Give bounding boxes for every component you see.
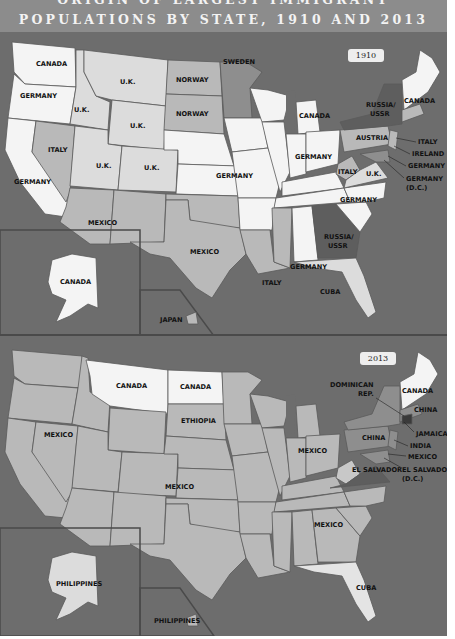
state-michigan: [296, 404, 320, 438]
label-la: ITALY: [262, 279, 282, 287]
lake-michigan: [286, 90, 296, 130]
label-ga-2: USSR: [328, 242, 348, 250]
label-oh: GERMANY: [295, 153, 332, 161]
state-ohio: [306, 130, 340, 172]
label-fl: CUBA: [320, 288, 341, 296]
label-sd: NORWAY: [176, 110, 209, 118]
label-or: GERMANY: [20, 92, 57, 100]
map-2013: CANADA CANADA ETHIOPIA MEXICO MEXICO MEX…: [0, 336, 447, 636]
state-maryland: [360, 450, 390, 464]
label-ny-1: DOMINICAN: [330, 381, 374, 389]
label-nc: GERMANY: [340, 196, 377, 204]
label-sd: ETHIOPIA: [181, 417, 217, 425]
title-line-2: POPULATIONS BY STATE, 1910 AND 2013: [0, 12, 447, 27]
map-2013-svg: CANADA CANADA ETHIOPIA MEXICO MEXICO MEX…: [0, 336, 447, 636]
state-new-england: [400, 352, 438, 410]
label-dc-2: (D.C.): [406, 184, 427, 192]
state-hawaii: [186, 312, 198, 324]
state-alaska: [48, 254, 98, 322]
state-new-jersey: [388, 430, 398, 450]
label-ne: CANADA: [402, 387, 434, 395]
label-mt: U.K.: [120, 78, 135, 86]
label-fl: CUBA: [356, 584, 377, 592]
state-north-carolina: [344, 486, 386, 506]
label-wv: ITALY: [338, 168, 358, 176]
label-al: GERMANY: [290, 263, 327, 271]
label-tx: MEXICO: [190, 248, 219, 256]
label-co: U.K.: [144, 164, 159, 172]
label-wy: U.K.: [130, 122, 145, 130]
label-nd: CANADA: [180, 383, 212, 391]
label-central: MEXICO: [165, 483, 194, 491]
infographic-title: ORIGIN OF LARGEST IMMIGRANT POPULATIONS …: [0, 0, 447, 32]
label-ne: CANADA: [404, 97, 436, 105]
state-kansas: [176, 164, 238, 196]
label-ak: PHILIPPINES: [56, 580, 103, 588]
page-margin: [447, 0, 455, 639]
hawaii-inset-border: [140, 290, 214, 336]
state-wyoming: [108, 408, 166, 454]
map-1910: CANADA GERMANY GERMANY U.K. U.K. ITALY U…: [0, 32, 447, 336]
label-ny-2: USSR: [370, 110, 390, 118]
state-maryland: [360, 150, 390, 162]
state-wisconsin: [250, 394, 290, 428]
state-iowa: [224, 424, 268, 456]
label-ut: U.K.: [96, 162, 111, 170]
state-ohio: [306, 434, 340, 476]
label-md: GERMANY: [408, 162, 445, 170]
label-nj: JAMAICA: [415, 430, 447, 438]
label-ny-2: REP.: [358, 390, 374, 398]
label-dc-2: (D.C.): [402, 475, 423, 483]
label-de: IRELAND: [412, 150, 445, 158]
hawaii-inset-border: [140, 588, 214, 636]
label-pa: CHINA: [362, 434, 386, 442]
state-new-mexico: [110, 190, 166, 244]
label-de: INDIA: [410, 442, 432, 450]
label-nv: ITALY: [48, 146, 68, 154]
state-new-mexico: [110, 492, 166, 546]
map-1910-svg: CANADA GERMANY GERMANY U.K. U.K. ITALY U…: [0, 32, 447, 336]
state-arizona: [60, 188, 114, 244]
label-wa: CANADA: [36, 60, 68, 68]
label-nj: ITALY: [418, 138, 438, 146]
state-arkansas: [238, 198, 276, 230]
state-iowa: [224, 118, 268, 152]
label-ga-1: RUSSIA/: [324, 233, 354, 241]
label-nd: NORWAY: [176, 76, 209, 84]
state-florida: [294, 562, 376, 622]
label-va: U.K.: [366, 170, 381, 178]
label-ma: CHINA: [414, 406, 438, 414]
label-va: EL SALVADOR: [352, 466, 402, 474]
label-mn: SWEDEN: [223, 58, 255, 66]
label-south: MEXICO: [314, 521, 343, 529]
year-badge-1910: 1910: [348, 49, 384, 62]
label-hi: JAPAN: [159, 316, 182, 324]
label-pa: AUSTRIA: [356, 134, 389, 142]
label-ca: GERMANY: [14, 178, 51, 186]
state-mississippi: [272, 512, 292, 572]
label-dc-1: EL SALVADOR: [402, 466, 447, 474]
label-ak: CANADA: [60, 278, 92, 286]
label-mt: CANADA: [116, 382, 148, 390]
state-wisconsin: [250, 88, 290, 122]
state-mississippi: [272, 208, 292, 268]
label-plains: GERMANY: [216, 172, 253, 180]
label-az: MEXICO: [88, 219, 117, 227]
year-badge-2013: 2013: [360, 352, 396, 365]
label-id: U.K.: [74, 106, 89, 114]
lake-michigan: [286, 394, 296, 434]
label-hi: PHILIPPINES: [154, 617, 201, 625]
label-dc-1: GERMANY: [406, 175, 443, 183]
label-west: MEXICO: [44, 431, 73, 439]
title-line-1: ORIGIN OF LARGEST IMMIGRANT: [0, 0, 447, 7]
label-mi: CANADA: [299, 112, 331, 120]
label-midwest: MEXICO: [298, 447, 327, 455]
state-arkansas: [238, 502, 276, 534]
state-indiana: [286, 438, 306, 482]
label-md: MEXICO: [408, 453, 437, 461]
label-ny-1: RUSSIA/: [366, 101, 396, 109]
